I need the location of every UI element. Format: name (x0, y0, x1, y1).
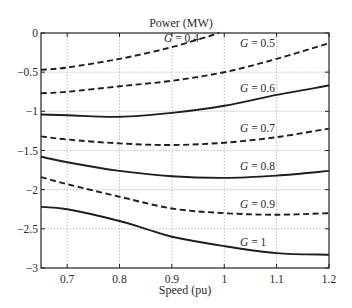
curve-label: G = 0.9 (240, 198, 275, 210)
y-tick-label: −1.5 (17, 145, 38, 157)
curves (41, 33, 329, 255)
curve-label: G = 0.6 (240, 82, 275, 94)
curve-0-7 (41, 129, 329, 145)
power-vs-speed-chart: 0.70.80.911.11.2 0−0.5−1−1.5−2−2.5−3 G =… (0, 0, 352, 308)
x-tick-label: 1.1 (269, 273, 284, 285)
curve-label: G = 0.4 (164, 32, 199, 44)
y-tick-label: −3 (26, 262, 38, 274)
x-tick-label: 1 (221, 273, 227, 285)
curve-label: G = 0.8 (240, 160, 275, 172)
x-tick-label: 1.2 (322, 273, 337, 285)
curve-label: G = 1 (240, 236, 267, 248)
grid-lines (41, 33, 329, 268)
x-tick-label: 0.8 (112, 273, 127, 285)
chart-title: Power (MW) (149, 16, 213, 30)
y-tick-label: −1 (26, 105, 38, 117)
x-axis-ticks: 0.70.80.911.11.2 (60, 33, 336, 285)
curve-label: G = 0.7 (240, 122, 275, 134)
y-tick-label: 0 (32, 27, 38, 39)
y-tick-label: −2.5 (17, 223, 38, 235)
chart-canvas: 0.70.80.911.11.2 0−0.5−1−1.5−2−2.5−3 G =… (0, 0, 352, 308)
curve-label: G = 0.5 (240, 37, 275, 49)
curve-0-5 (41, 43, 329, 93)
y-tick-label: −2 (26, 184, 38, 196)
y-tick-label: −0.5 (17, 66, 38, 78)
x-tick-label: 0.7 (60, 273, 75, 285)
curve-0-9 (41, 177, 329, 215)
curve-0-8 (41, 157, 329, 178)
x-axis-label: Speed (pu) (159, 283, 211, 297)
